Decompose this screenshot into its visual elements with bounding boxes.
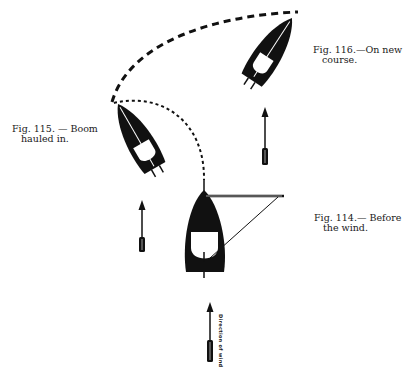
- boat-fig-116: [236, 11, 304, 95]
- wind-arrow-bottom: [207, 302, 214, 362]
- boat-fig-115: [106, 97, 171, 182]
- label-fig-116: Fig. 116.—On new course.: [313, 45, 402, 65]
- wind-direction-label: Direction of wind: [218, 314, 224, 367]
- wind-arrow-right: [262, 107, 269, 165]
- diagram-canvas: Fig. 116.—On new course. Fig. 115. — Boo…: [0, 0, 405, 391]
- label-fig-115-line2: hauled in.: [12, 134, 98, 144]
- boat-fig-114: [185, 180, 284, 278]
- label-fig-116-line2: course.: [313, 55, 402, 65]
- label-fig-115: Fig. 115. — Boom hauled in.: [12, 124, 98, 144]
- label-fig-114: Fig. 114.— Before the wind.: [314, 213, 401, 233]
- label-fig-114-line2: the wind.: [314, 223, 401, 233]
